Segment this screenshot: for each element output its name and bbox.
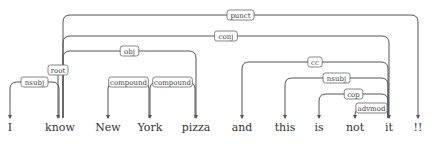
label-cc: cc (308, 57, 322, 67)
edge-label: nsubj (327, 75, 346, 83)
edge-label: nsubj (25, 79, 44, 87)
token-word: and (232, 121, 253, 134)
arrowhead-icon (353, 115, 357, 119)
token-word: this (275, 121, 296, 134)
label-punct: punct (227, 10, 254, 20)
edge-label: compound (154, 79, 191, 87)
edge-label: punct (230, 12, 250, 20)
token-word: I (8, 121, 12, 134)
token-word: it (385, 121, 394, 134)
token-word: not (346, 121, 365, 134)
edge-label: obj (124, 48, 135, 56)
label-conj: conj (215, 31, 238, 41)
label-root: root (48, 65, 68, 75)
edge-label: cc (311, 59, 319, 67)
token-row: IknowNewYorkpizzaandthisisnotit!! (8, 121, 423, 134)
edge-label: conj (219, 33, 234, 41)
edge-label: cop (347, 91, 360, 99)
edge-label: advmod (358, 105, 386, 113)
label-compound: compound (109, 77, 149, 87)
arrowhead-icon (283, 115, 287, 119)
label-cop: cop (344, 89, 363, 99)
label-nsubj: nsubj (21, 77, 48, 87)
token-word: pizza (182, 121, 211, 134)
arrowhead-icon (106, 115, 110, 119)
token-word: is (314, 121, 324, 134)
label-nsubj: nsubj (323, 73, 350, 83)
token-word: know (45, 121, 75, 134)
arrowhead-icon (416, 115, 420, 119)
arc-punct (63, 15, 418, 118)
arrowhead-icon (240, 115, 244, 119)
arrowhead-icon (8, 115, 12, 119)
dependency-diagram: nsubjcompoundcompoundobjadvmodcopnsubjcc… (0, 0, 436, 144)
edge-label: root (51, 67, 66, 75)
label-compound: compound (153, 77, 193, 87)
edge-label: compound (110, 79, 147, 87)
token-word: New (95, 121, 121, 134)
token-word: !! (414, 121, 423, 134)
label-advmod: advmod (356, 103, 387, 113)
token-word: York (137, 121, 163, 134)
arrowhead-icon (317, 115, 321, 119)
label-obj: obj (120, 46, 139, 56)
